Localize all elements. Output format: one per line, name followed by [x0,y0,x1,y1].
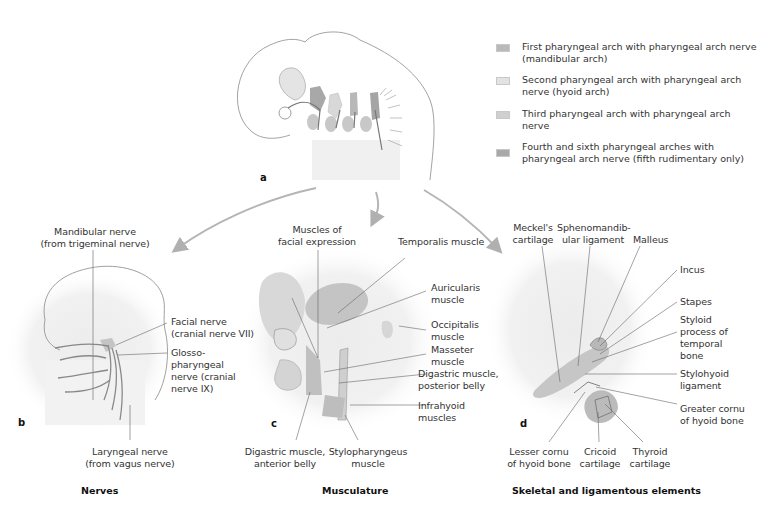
label-temporalis-muscle: Temporalis muscle [398,236,484,248]
swatch-third-arch [496,111,510,119]
label-meckels-cartilage: Meckel's cartilage [508,222,558,246]
embryo-illustration [237,32,434,180]
panel-letter-a: a [260,172,267,183]
label-occipitalis-muscle: Occipitalis muscle [431,319,479,343]
panel-letter-b: b [18,417,25,428]
legend-text: First pharyngeal arch with pharyngeal ar… [522,41,757,53]
label-malleus: Malleus [633,234,668,246]
label-infrahyoid-muscles: Infrahyoid muscles [418,400,465,424]
label-thyroid-cartilage: Thyroid cartilage [628,446,672,470]
label-sphenomandibular-ligament: Sphenomandib- ular ligament [557,222,629,246]
label-lesser-cornu-hyoid: Lesser cornu of hyoid bone [504,446,574,470]
label-laryngeal-nerve: Laryngeal nerve (from vagus nerve) [80,446,180,470]
label-incus: Incus [680,264,705,276]
label-facial-nerve: Facial nerve (cranial nerve VII) [171,316,254,340]
label-cricoid-cartilage: Cricoid cartilage [578,446,622,470]
caption-skeletal-ligamentous: Skeletal and ligamentous elements [512,485,701,496]
label-stylohyoid-ligament: Stylohyoid ligament [680,368,729,392]
legend-item-second-arch: Second pharyngeal arch with pharyngeal a… [496,74,741,98]
caption-musculature: Musculature [322,485,388,496]
legend-item-third-arch: Third pharyngeal arch with pharyngeal ar… [496,108,759,132]
legend-text: Second pharyngeal arch with pharyngeal a… [522,74,741,86]
musculature-illustration [240,245,440,440]
label-greater-cornu-hyoid: Greater cornu of hyoid bone [680,403,745,427]
legend-item-fourth-sixth-arches: Fourth and sixth pharyngeal arches with … [496,141,744,165]
swatch-second-arch [496,77,510,85]
label-stapes: Stapes [680,296,712,308]
legend-text: pharyngeal arch nerve (fifth rudimentary… [522,153,744,165]
label-mandibular-nerve: Mandibular nerve (from trigeminal nerve) [40,226,150,250]
skeletal-illustration [485,235,677,442]
label-auricularis-muscle: Auricularis muscle [431,282,480,306]
label-stylopharyngeus-muscle: Stylopharyngeus muscle [328,446,408,470]
panel-letter-d: d [520,418,527,429]
label-styloid-process: Styloid process of temporal bone [680,314,728,362]
legend-text: Third pharyngeal arch with pharyngeal ar… [522,108,759,132]
label-muscles-facial-expression: Muscles of facial expression [272,224,362,248]
caption-nerves: Nerves [81,485,118,496]
label-masseter-muscle: Masseter muscle [431,344,473,368]
nerves-head-illustration [5,250,175,440]
label-digastric-posterior-belly: Digastric muscle, posterior belly [418,368,499,392]
legend-text: Fourth and sixth pharyngeal arches with [522,141,744,153]
panel-letter-c: c [271,418,277,429]
legend-text: (mandibular arch) [522,53,757,65]
swatch-first-arch [496,44,510,52]
swatch-fourth-sixth-arches [496,149,510,157]
legend-item-first-arch: First pharyngeal arch with pharyngeal ar… [496,41,757,65]
label-digastric-anterior-belly: Digastric muscle, anterior belly [242,446,328,470]
label-glossopharyngeal-nerve: Glosso- pharyngeal nerve (cranial nerve … [171,347,236,395]
legend-text: nerve (hyoid arch) [522,86,741,98]
